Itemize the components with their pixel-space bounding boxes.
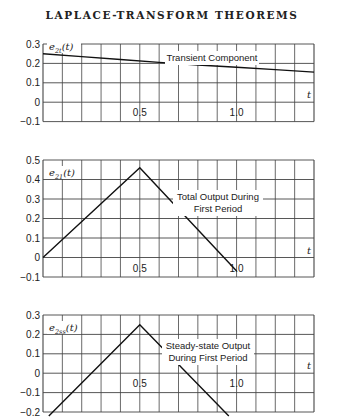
annotation-label: Transient Component — [165, 51, 259, 65]
y-tick-label: −0.1 — [20, 116, 40, 127]
y-tick-label: 0.2 — [26, 58, 40, 69]
data-series-line — [49, 325, 229, 416]
svg-text:Transient Component: Transient Component — [166, 52, 257, 63]
x-axis-label: t — [307, 89, 312, 100]
y-tick-label: 0.2 — [26, 213, 40, 224]
svg-text:During First Period: During First Period — [168, 352, 247, 363]
annotation-label: Steady-state OutputDuring First Period — [162, 339, 254, 365]
y-tick-label: 0.1 — [26, 233, 40, 244]
y-tick-label: 0.3 — [26, 194, 40, 205]
y-tick-label: 0 — [34, 252, 40, 263]
y-tick-label: −0.1 — [20, 272, 40, 283]
y-axis-label: e2ss(t) — [47, 321, 81, 336]
svg-text:Total Output During: Total Output During — [177, 191, 259, 202]
x-tick-label: 1.0 — [230, 263, 244, 274]
x-tick-label: 1.0 — [230, 378, 244, 389]
y-tick-label: 0 — [34, 368, 40, 379]
x-tick-label: 1.0 — [230, 107, 244, 118]
y-tick-label: 0.1 — [26, 348, 40, 359]
annotation-label: Total Output DuringFirst Period — [173, 190, 263, 216]
y-tick-label: 0.4 — [26, 174, 40, 185]
x-tick-label: 0.5 — [133, 107, 147, 118]
x-tick-label: 0.5 — [133, 263, 147, 274]
y-tick-label: −0.1 — [20, 387, 40, 398]
y-tick-label: 0 — [34, 97, 40, 108]
y-tick-label: 0.5 — [26, 155, 40, 166]
x-tick-label: 0.5 — [133, 378, 147, 389]
y-axis-label: e21(t) — [47, 166, 81, 181]
x-axis-label: t — [307, 360, 312, 371]
y-tick-label: 0.3 — [26, 310, 40, 321]
charts-canvas: 0.30.20.10−0.10.51.0t0.50.40.30.20.10−0.… — [0, 0, 344, 417]
svg-text:Steady-state Output: Steady-state Output — [166, 340, 251, 351]
y-axis-label: e2t(t) — [47, 40, 81, 55]
y-tick-label: 0.3 — [26, 39, 40, 50]
y-tick-label: 0.2 — [26, 329, 40, 340]
y-tick-label: −0.2 — [20, 407, 40, 417]
svg-text:First Period: First Period — [194, 203, 243, 214]
x-axis-label: t — [307, 245, 312, 256]
y-tick-label: 0.1 — [26, 77, 40, 88]
